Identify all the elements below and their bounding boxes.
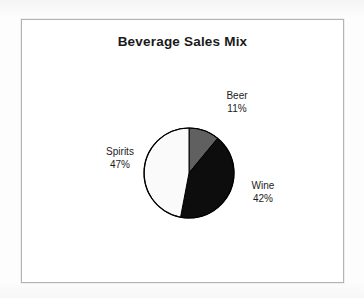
pie-slice-group [144,128,234,218]
pie-label-wine-value: 42% [234,192,292,205]
pie-label-beer-name: Beer [208,89,266,102]
pie-slice-spirits [144,128,189,217]
pie-label-spirits-name: Spirits [91,145,149,158]
pie-label-beer: Beer 11% [208,89,266,115]
pie-chart [22,20,345,284]
pie-label-beer-value: 11% [208,102,266,115]
pie-label-wine: Wine 42% [234,179,292,205]
pie-label-wine-name: Wine [234,179,292,192]
pie-label-spirits: Spirits 47% [91,145,149,171]
chart-frame: Beverage Sales Mix Beer 11% Wine 42% Spi… [21,19,344,283]
pie-label-spirits-value: 47% [91,158,149,171]
